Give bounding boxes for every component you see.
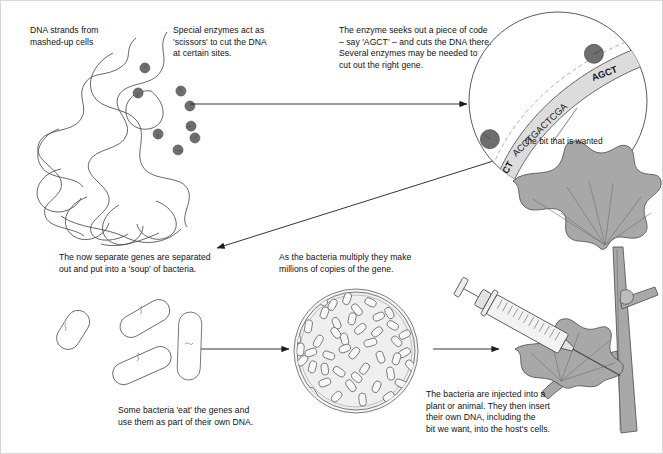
bacteria-soup [52, 295, 202, 388]
petri-dish [291, 289, 418, 413]
diagram-frame: AGCT ACCTGACTCGA AGCT [0, 0, 663, 454]
caption-separated: The now separate genes are separated out… [59, 252, 259, 275]
caption-dna-strands: DNA strands from mashed-up cells [30, 25, 180, 48]
caption-enzymes: Special enzymes act as 'scissors' to cut… [173, 25, 333, 60]
arrow-lens-to-soup [217, 157, 506, 248]
caption-injected: The bacteria are injected into a plant o… [426, 389, 626, 435]
caption-seeks-code: The enzyme seeks out a piece of code – s… [339, 25, 569, 71]
syringe-plunger [454, 277, 469, 297]
plant-bud [620, 290, 633, 304]
caption-bit-wanted: the bit that is wanted [525, 136, 663, 148]
caption-multiply: As the bacteria multiply they make milli… [279, 252, 469, 275]
caption-bacteria-eat: Some bacteria 'eat' the genes and use th… [118, 405, 328, 428]
dna-tangle [37, 32, 189, 246]
